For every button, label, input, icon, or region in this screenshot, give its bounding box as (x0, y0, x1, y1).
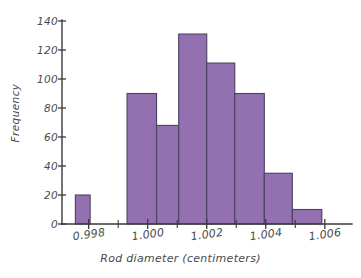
histogram-bar (207, 63, 235, 224)
plot-area (0, 0, 361, 278)
histogram-bar (264, 173, 292, 224)
histogram-bar (157, 125, 179, 224)
histogram-figure: Frequency 020406080100120140 0.9981.0001… (0, 0, 361, 278)
histogram-bar (235, 94, 265, 225)
histogram-bar (75, 195, 90, 224)
bar-series (75, 34, 321, 224)
x-axis-title: Rod diameter (centimeters) (0, 252, 361, 265)
histogram-bar (292, 210, 322, 225)
histogram-bar (179, 34, 207, 224)
histogram-bar (127, 94, 157, 225)
